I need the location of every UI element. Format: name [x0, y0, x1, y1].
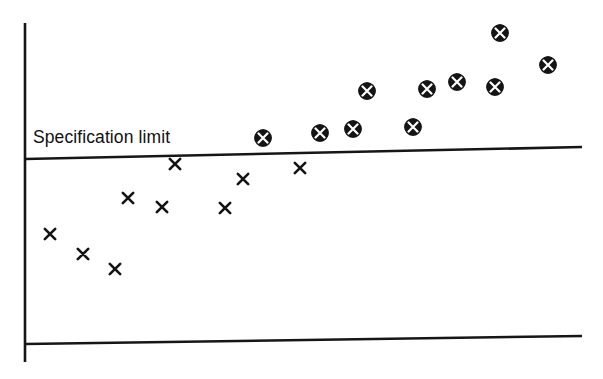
data-point-x-marker	[123, 193, 133, 203]
data-point-x-marker	[220, 203, 230, 213]
data-point-circled-x-marker	[359, 83, 375, 99]
data-point-x-marker	[170, 159, 180, 169]
series-out-of-specification	[255, 25, 556, 146]
data-point-circled-x-marker	[405, 119, 421, 135]
data-point-circled-x-marker	[540, 57, 556, 73]
specification-limit-line	[25, 147, 582, 159]
data-point-circled-x-marker	[487, 79, 503, 95]
baseline-line	[25, 336, 582, 344]
series-within-specification	[45, 159, 305, 274]
data-point-x-marker	[78, 249, 88, 259]
data-point-circled-x-marker	[312, 125, 328, 141]
plot-area	[0, 0, 603, 379]
data-point-circled-x-marker	[492, 25, 508, 41]
reference-line-group	[25, 147, 582, 344]
data-point-circled-x-marker	[449, 74, 465, 90]
scatter-chart: Specification limit	[0, 0, 603, 379]
data-point-circled-x-marker	[419, 81, 435, 97]
data-point-circled-x-marker	[345, 121, 361, 137]
data-point-circled-x-marker	[255, 130, 271, 146]
data-point-x-marker	[157, 202, 167, 212]
data-point-x-marker	[45, 229, 55, 239]
data-point-x-marker	[295, 163, 305, 173]
specification-limit-label: Specification limit	[33, 128, 170, 146]
data-point-x-marker	[110, 264, 120, 274]
data-point-x-marker	[238, 174, 248, 184]
